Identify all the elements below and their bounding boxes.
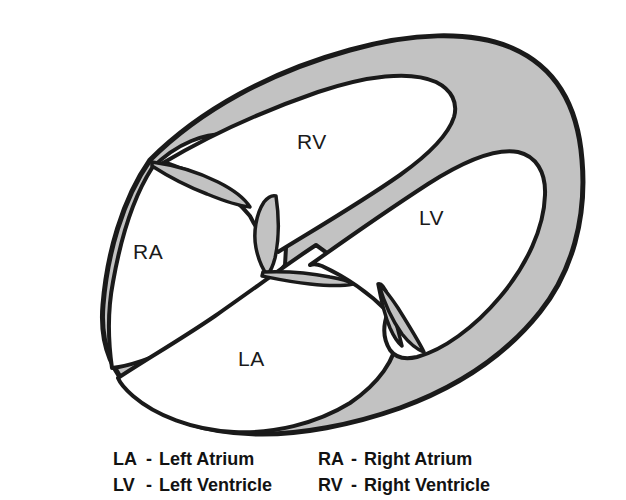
legend-dash: - <box>143 449 159 470</box>
chamber-label-right-atrium: RA <box>133 240 163 264</box>
legend-dash: - <box>348 475 364 496</box>
legend-term-right-atrium: Right Atrium <box>364 449 472 470</box>
legend-abbr-la: LA <box>113 449 143 470</box>
legend-entry-lv: LV - Left Ventricle <box>113 475 272 496</box>
legend-term-right-ventricle: Right Ventricle <box>364 475 490 496</box>
legend-abbr-ra: RA <box>318 449 348 470</box>
legend-abbr-rv: RV <box>318 475 348 496</box>
legend-abbr-lv: LV <box>113 475 143 496</box>
chamber-label-right-ventricle: RV <box>297 130 327 154</box>
legend-term-left-atrium: Left Atrium <box>159 449 254 470</box>
legend-dash: - <box>348 449 364 470</box>
legend-dash: - <box>143 475 159 496</box>
chamber-label-left-ventricle: LV <box>419 206 444 230</box>
legend: LA - Left Atrium RA - Right Atrium LV - … <box>0 446 626 500</box>
legend-entry-rv: RV - Right Ventricle <box>318 475 490 496</box>
legend-term-left-ventricle: Left Ventricle <box>159 475 272 496</box>
legend-entry-la: LA - Left Atrium <box>113 449 254 470</box>
legend-row: LV - Left Ventricle RV - Right Ventricle <box>0 472 626 499</box>
legend-entry-ra: RA - Right Atrium <box>318 449 472 470</box>
chamber-label-left-atrium: LA <box>238 347 265 371</box>
legend-row: LA - Left Atrium RA - Right Atrium <box>0 446 626 473</box>
heart-diagram: RV RA LV LA LA - Left Atrium RA - Right … <box>0 0 626 500</box>
heart-cross-section-illustration <box>0 0 626 446</box>
